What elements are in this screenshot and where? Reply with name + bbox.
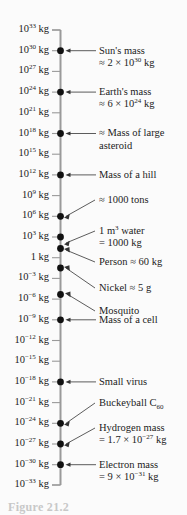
callout-large-asteroid-line1: ≈ Mass of large: [99, 127, 164, 138]
tick-label-1e-24: 10−24 kg: [0, 417, 49, 428]
marker-nickel-coin: [57, 265, 64, 272]
figure-caption: Figure 21.2: [8, 500, 69, 515]
callout-suns-mass-line2: ≈ 2 × 1030 kg: [99, 57, 154, 69]
marker-thousand-tons: [57, 213, 64, 220]
tick-label-1: 1 kg: [0, 252, 49, 263]
callout-water-line1: 1 m3 water: [99, 225, 145, 236]
callout-person: Person ≈ 60 kg: [99, 256, 162, 268]
callout-electron-line1: Electron mass: [99, 459, 158, 470]
marker-mosquito: [57, 291, 64, 298]
callout-person-line1: Person ≈ 60 kg: [99, 256, 162, 267]
axis-ticks: [52, 30, 61, 485]
callout-hill: Mass of a hill: [99, 169, 156, 181]
tick-label-1e-12: 10−12 kg: [0, 335, 49, 346]
callout-hydrogen-line2: = 1.7 × 10−27 kg: [99, 434, 166, 446]
tick-label-1e27: 1027 kg: [0, 65, 49, 76]
tick-label-1e6: 106 kg: [0, 210, 49, 221]
marker-cubic-metre-water: [57, 234, 64, 241]
callout-buckyball-line1: Buckeyball C60: [99, 397, 163, 408]
leader-arrowheads-diagonal: [64, 214, 71, 447]
tick-label-1e-6: 10−6 kg: [0, 293, 49, 304]
callout-hydrogen-line1: Hydrogen mass: [99, 422, 165, 433]
marker-earths-mass: [57, 89, 64, 96]
callout-nickel: Nickel ≈ 5 g: [99, 282, 151, 294]
callout-earths-mass-line1: Earth's mass: [99, 86, 151, 97]
callout-suns-mass-line1: Sun's mass: [99, 45, 145, 56]
tick-label-1e15: 1015 kg: [0, 148, 49, 159]
tick-label-1e3: 103 kg: [0, 231, 49, 242]
tick-label-1e-21: 10−21 kg: [0, 397, 49, 408]
callout-small-virus-line1: Small virus: [99, 376, 147, 387]
callout-water-line2: = 1000 kg: [99, 237, 145, 249]
marker-large-asteroid: [57, 130, 64, 137]
callout-electron-line2: = 9 × 10−31 kg: [99, 471, 159, 483]
marker-small-virus: [57, 379, 64, 386]
marker-person: [57, 245, 64, 252]
tick-label-1e-3: 10−3 kg: [0, 272, 49, 283]
callout-earths-mass: Earth's mass ≈ 6 × 1024 kg: [99, 86, 154, 111]
callout-buckyball: Buckeyball C60: [99, 397, 163, 409]
marker-hydrogen: [57, 441, 64, 448]
marker-hill: [57, 172, 64, 179]
tick-label-1e-30: 10−30 kg: [0, 459, 49, 470]
tick-label-1e33: 1033 kg: [0, 24, 49, 35]
callout-small-virus: Small virus: [99, 376, 147, 388]
tick-label-1e24: 1024 kg: [0, 86, 49, 97]
callout-suns-mass: Sun's mass ≈ 2 × 1030 kg: [99, 45, 154, 70]
tick-label-1e-15: 10−15 kg: [0, 355, 49, 366]
callout-cubic-metre-water: 1 m3 water = 1000 kg: [99, 225, 145, 250]
leader-arrowheads: [66, 49, 71, 467]
leader-lines-diagonal: [66, 200, 95, 444]
tick-label-1e21: 1021 kg: [0, 107, 49, 118]
callout-hill-line1: Mass of a hill: [99, 169, 156, 180]
tick-label-1e18: 1018 kg: [0, 128, 49, 139]
tick-label-1e9: 109 kg: [0, 190, 49, 201]
tick-label-1e30: 1030 kg: [0, 45, 49, 56]
callout-cell: Mass of a cell: [99, 314, 158, 326]
tick-label-1e12: 1012 kg: [0, 169, 49, 180]
tick-label-1e-27: 10−27 kg: [0, 438, 49, 449]
callout-nickel-line1: Nickel ≈ 5 g: [99, 282, 151, 293]
callout-large-asteroid-line2: asteroid: [99, 140, 187, 152]
callout-earths-mass-line2: ≈ 6 × 1024 kg: [99, 98, 154, 110]
tick-label-1e-9: 10−9 kg: [0, 314, 49, 325]
marker-electron: [57, 461, 64, 468]
tick-label-1e-33: 10−33 kg: [0, 479, 49, 490]
marker-cell: [57, 316, 64, 323]
callout-cell-line1: Mass of a cell: [99, 314, 158, 325]
callout-electron: Electron mass = 9 × 10−31 kg: [99, 459, 159, 484]
marker-suns-mass: [57, 47, 64, 54]
callout-large-asteroid: ≈ Mass of large asteroid: [99, 127, 187, 152]
callout-hydrogen: Hydrogen mass = 1.7 × 10−27 kg: [99, 422, 166, 447]
leader-lines-horizontal: [68, 51, 96, 465]
tick-label-1e-18: 10−18 kg: [0, 376, 49, 387]
marker-buckyball: [57, 420, 64, 427]
callout-thousand-tons-line1: ≈ 1000 tons: [99, 194, 149, 205]
callout-thousand-tons: ≈ 1000 tons: [99, 194, 149, 206]
